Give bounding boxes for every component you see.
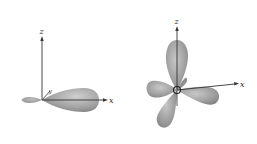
y-axis-label: y	[48, 87, 53, 95]
small-lobe-negative-x	[22, 97, 42, 103]
right-orbital-svg: z x	[128, 0, 257, 144]
z-axis-label: z	[39, 27, 45, 36]
z-axis-arrowhead-right	[175, 26, 178, 31]
x-axis-label-right: x	[240, 80, 245, 89]
x-axis-label: x	[109, 96, 114, 105]
left-orbital-svg: z y x	[0, 0, 128, 144]
x-axis-arrowhead	[103, 98, 108, 101]
single-hybrid-orbital-diagram: z y x	[0, 0, 128, 144]
z-axis-label-right: z	[174, 17, 180, 26]
x-axis-arrowhead-right	[234, 82, 239, 86]
z-axis-arrowhead	[40, 36, 43, 41]
sp3-hybrid-orbitals-diagram: z x	[128, 0, 257, 144]
